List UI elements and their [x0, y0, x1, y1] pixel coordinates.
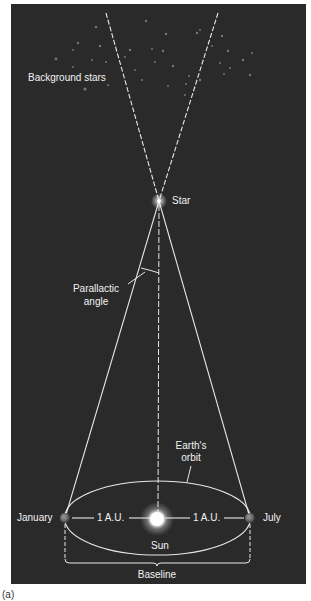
figure-caption: (a) — [2, 589, 14, 600]
earths-orbit-leader — [187, 466, 191, 482]
background-stars — [55, 20, 253, 96]
star-icon — [157, 199, 161, 203]
label-angle: angle — [68, 296, 124, 308]
center-line — [158, 205, 159, 512]
parallactic-angle-leader — [128, 272, 145, 284]
earth-july-icon — [245, 513, 255, 523]
label-au-left: 1 A.U. — [97, 512, 124, 524]
parallax-diagram — [0, 0, 311, 601]
label-background-stars: Background stars — [28, 72, 106, 84]
parallactic-angle-arc — [141, 268, 159, 273]
earth-january-icon — [60, 513, 70, 523]
label-baseline: Baseline — [127, 569, 187, 581]
label-earths: Earth's — [170, 440, 212, 452]
sun-icon — [150, 512, 164, 526]
label-orbit: orbit — [170, 452, 212, 464]
label-parallactic: Parallactic — [68, 283, 124, 295]
sight-lines-solid — [65, 201, 250, 518]
label-star: Star — [172, 195, 190, 207]
label-sun: Sun — [140, 540, 180, 552]
label-au-right: 1 A.U. — [193, 512, 220, 524]
label-january: January — [17, 512, 53, 524]
sight-lines-dashed — [106, 13, 218, 201]
label-july: July — [263, 512, 281, 524]
